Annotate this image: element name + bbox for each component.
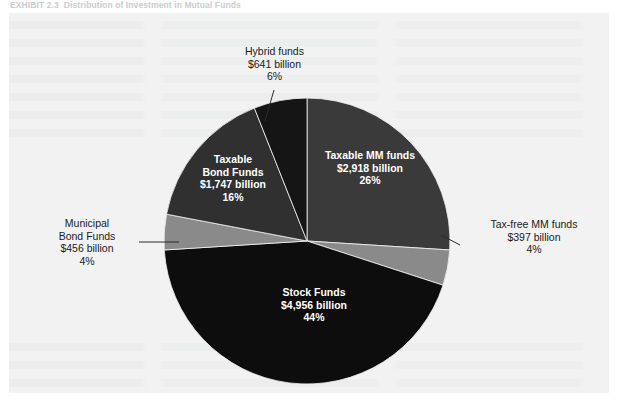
slice-label-line: $1,747 billion <box>177 178 289 191</box>
chart-panel: Hybrid funds $641 billion 6% Taxable MM … <box>9 13 609 393</box>
slice-label-line: Bond Funds <box>177 166 289 179</box>
slice-label-line: Taxable MM funds <box>300 149 440 162</box>
pie-slice-group <box>164 98 450 384</box>
slice-label-line: 16% <box>177 191 289 204</box>
slice-label-stock-funds: Stock Funds $4,956 billion 44% <box>244 286 384 324</box>
exhibit-number: EXHIBIT 2.3 <box>10 0 59 10</box>
slice-label-line: Municipal <box>37 217 137 230</box>
exhibit-title: EXHIBIT 2.3Distribution of Investment in… <box>10 0 530 11</box>
exhibit-page: EXHIBIT 2.3Distribution of Investment in… <box>0 0 618 408</box>
slice-label-taxable-bond-funds: Taxable Bond Funds $1,747 billion 16% <box>177 153 289 203</box>
slice-label-line: Hybrid funds <box>202 45 347 58</box>
slice-label-line: Stock Funds <box>244 286 384 299</box>
slice-label-line: 44% <box>244 311 384 324</box>
slice-label-taxable-mm-funds: Taxable MM funds $2,918 billion 26% <box>300 149 440 187</box>
slice-label-hybrid-funds: Hybrid funds $641 billion 6% <box>202 45 347 83</box>
slice-label-line: $456 billion <box>37 242 137 255</box>
exhibit-title-text: Distribution of Investment in Mutual Fun… <box>64 0 241 10</box>
slice-label-line: 26% <box>300 174 440 187</box>
slice-label-line: Tax-free MM funds <box>464 218 604 231</box>
slice-label-line: Taxable <box>177 153 289 166</box>
slice-label-municipal-bond-funds: Municipal Bond Funds $456 billion 4% <box>37 217 137 267</box>
slice-label-line: 6% <box>202 70 347 83</box>
slice-label-line: $397 billion <box>464 231 604 244</box>
slice-label-line: 4% <box>37 255 137 268</box>
slice-label-tax-free-mm-funds: Tax-free MM funds $397 billion 4% <box>464 218 604 256</box>
slice-label-line: $2,918 billion <box>300 162 440 175</box>
slice-label-line: Bond Funds <box>37 230 137 243</box>
slice-label-line: $641 billion <box>202 58 347 71</box>
slice-label-line: 4% <box>464 243 604 256</box>
slice-label-line: $4,956 billion <box>244 299 384 312</box>
